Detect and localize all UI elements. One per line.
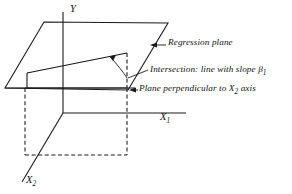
annotation-regression-plane: Regression plane [168,38,233,47]
intersection-leader-line [128,70,148,78]
axis-label-y-text: Y [70,3,76,14]
annotation-intersection-subscript: 1 [263,69,267,77]
regression-plane-outline [5,22,168,90]
regression-plane-figure: Regression plane Intersection: line with… [0,0,292,194]
projection-rectangle [25,88,127,155]
regression-plane-leader [150,42,166,47]
regression-plane-shape [5,22,168,90]
axis-label-y: Y [70,4,76,15]
figure-canvas [0,0,292,194]
axis-label-x2: X2 [26,175,36,188]
perpendicular-plane-shape [5,53,135,88]
axis-label-x1: X1 [160,112,170,125]
annotation-regression-plane-text: Regression plane [168,37,233,47]
annotation-plane-perp-text-after: axis [238,83,256,93]
x2-axis-stroke [22,113,63,182]
annotation-intersection-text: Intersection: line with slope β [150,64,263,74]
intersection-leader [128,70,148,78]
annotation-intersection: Intersection: line with slope β1 [150,65,267,77]
x2-axis-line [22,113,63,182]
beta1-angle-arc [110,55,127,78]
axis-label-x1-subscript: 1 [166,117,170,125]
axis-label-x2-subscript: 2 [32,180,36,188]
annotation-plane-perp-text: Plane perpendicular to X [139,83,235,93]
annotation-plane-perpendicular: Plane perpendicular to X2 axis [139,84,256,96]
